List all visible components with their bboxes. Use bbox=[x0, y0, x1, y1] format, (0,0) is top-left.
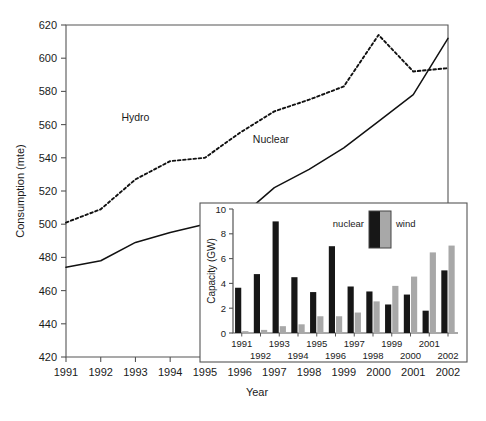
inset-legend-nuclear-swatch bbox=[369, 211, 380, 248]
inset-bar-wind bbox=[449, 246, 455, 333]
inset-x-tick-label: 1999 bbox=[381, 338, 402, 349]
main-x-tick-label: 2002 bbox=[436, 366, 460, 378]
inset-bar-nuclear bbox=[310, 292, 316, 333]
main-y-tick-label: 420 bbox=[39, 351, 57, 363]
main-x-tick-label: 2000 bbox=[366, 366, 390, 378]
main-y-tick-label: 560 bbox=[39, 119, 57, 131]
inset-y-tick-label: 8 bbox=[221, 228, 226, 239]
inset-x-tick-label: 1995 bbox=[306, 338, 327, 349]
main-x-tick-label: 1995 bbox=[193, 366, 217, 378]
main-x-tick-label: 1999 bbox=[332, 366, 356, 378]
inset-legend-wind-label: wind bbox=[395, 218, 416, 229]
inset-bar-nuclear bbox=[385, 304, 391, 333]
inset-bar-wind bbox=[299, 324, 305, 333]
inset-bar-wind bbox=[242, 331, 248, 333]
inset-bar-wind bbox=[336, 316, 342, 333]
inset-bar-wind bbox=[317, 316, 323, 333]
inset-bar-nuclear bbox=[329, 246, 335, 333]
inset-x-tick-label: 2000 bbox=[400, 350, 421, 361]
inset-y-tick-label: 4 bbox=[221, 278, 226, 289]
main-series-label-hydro: Hydro bbox=[121, 111, 149, 123]
main-y-tick-label: 520 bbox=[39, 185, 57, 197]
inset-bar-wind bbox=[355, 313, 361, 333]
inset-x-tick-label: 1992 bbox=[250, 350, 271, 361]
inset-bar-wind bbox=[374, 301, 380, 333]
main-x-tick-label: 1997 bbox=[262, 366, 286, 378]
inset-legend-wind-swatch bbox=[380, 211, 391, 248]
inset-legend-nuclear-label: nuclear bbox=[333, 218, 364, 229]
main-x-tick-label: 1993 bbox=[123, 366, 147, 378]
inset-x-tick-label: 1991 bbox=[231, 338, 252, 349]
main-x-tick-label: 2001 bbox=[401, 366, 425, 378]
inset-bar-nuclear bbox=[273, 221, 279, 333]
main-y-tick-label: 440 bbox=[39, 318, 57, 330]
main-y-tick-label: 580 bbox=[39, 85, 57, 97]
main-x-axis-title: Year bbox=[246, 386, 269, 398]
inset-bar-wind bbox=[261, 330, 267, 333]
inset-x-tick-label: 2002 bbox=[437, 350, 458, 361]
main-y-axis-title: Consumption (mte) bbox=[14, 144, 26, 238]
inset-y-tick-label: 10 bbox=[215, 204, 226, 215]
main-series-label-nuclear: Nuclear bbox=[253, 133, 290, 145]
main-y-tick-label: 600 bbox=[39, 52, 57, 64]
main-y-tick-label: 620 bbox=[39, 19, 57, 31]
inset-bar-nuclear bbox=[254, 274, 260, 333]
inset-y-tick-label: 2 bbox=[221, 303, 226, 314]
inset-y-axis-title: Capacity (GW) bbox=[206, 238, 217, 304]
inset-bar-nuclear bbox=[404, 295, 410, 333]
main-x-tick-label: 1992 bbox=[88, 366, 112, 378]
inset-chart: 0246810Capacity (GW)19911992199319941995… bbox=[200, 203, 467, 362]
inset-y-tick-label: 6 bbox=[221, 253, 226, 264]
inset-x-tick-label: 1996 bbox=[325, 350, 346, 361]
main-x-tick-label: 1998 bbox=[297, 366, 321, 378]
inset-bar-nuclear bbox=[423, 311, 429, 333]
inset-x-tick-label: 1993 bbox=[269, 338, 290, 349]
inset-y-tick-label: 0 bbox=[221, 328, 226, 339]
main-y-tick-label: 500 bbox=[39, 218, 57, 230]
main-y-tick-label: 480 bbox=[39, 251, 57, 263]
main-x-tick-label: 1996 bbox=[227, 366, 251, 378]
chart-svg: 4204404604805005205405605806006201991199… bbox=[0, 0, 486, 421]
inset-bar-nuclear bbox=[366, 291, 372, 333]
main-y-tick-label: 540 bbox=[39, 152, 57, 164]
inset-bar-nuclear bbox=[348, 287, 354, 334]
inset-bar-wind bbox=[280, 326, 286, 333]
inset-bar-nuclear bbox=[291, 277, 297, 333]
inset-x-tick-label: 2001 bbox=[419, 338, 440, 349]
inset-bar-wind bbox=[392, 286, 398, 333]
inset-x-tick-label: 1997 bbox=[344, 338, 365, 349]
main-x-tick-label: 1991 bbox=[54, 366, 78, 378]
figure-container: 4204404604805005205405605806006201991199… bbox=[0, 0, 486, 421]
inset-x-tick-label: 1998 bbox=[362, 350, 383, 361]
inset-bar-nuclear bbox=[441, 270, 447, 333]
inset-bar-wind bbox=[430, 252, 436, 333]
main-y-tick-label: 460 bbox=[39, 285, 57, 297]
inset-bar-nuclear bbox=[235, 288, 241, 333]
inset-bar-wind bbox=[411, 277, 417, 333]
inset-x-tick-label: 1994 bbox=[287, 350, 308, 361]
main-x-tick-label: 1994 bbox=[158, 366, 182, 378]
